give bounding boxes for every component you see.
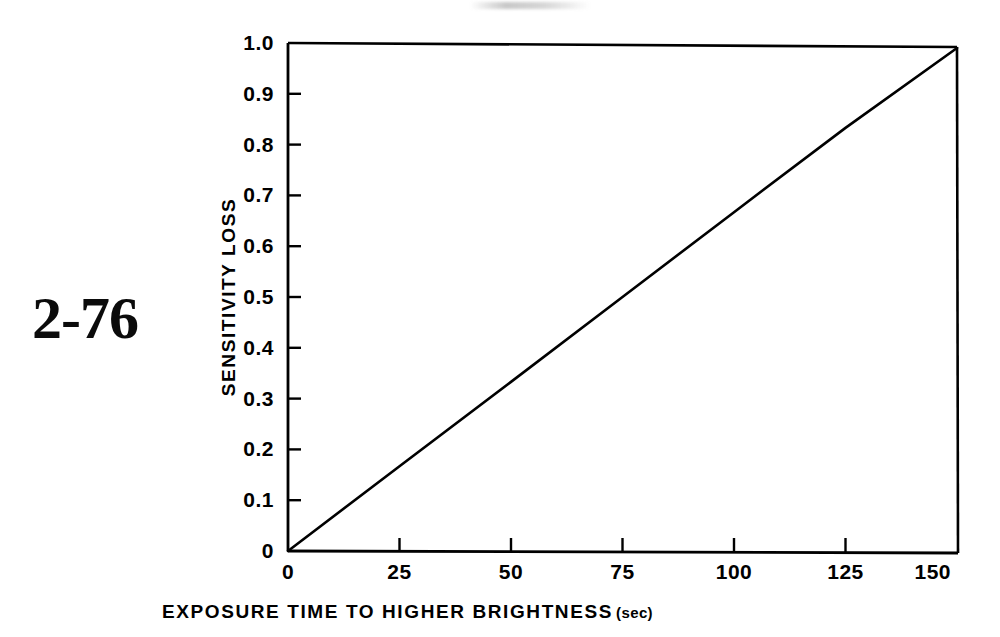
y-axis-tick-labels: 00.10.20.30.40.50.60.70.80.91.0 (243, 31, 274, 562)
x-tick-label-0: 0 (282, 560, 294, 583)
y-tick-label-0: 0 (262, 539, 274, 562)
x-axis-title-units: (sec) (616, 604, 653, 621)
data-line-sensitivity-loss (288, 48, 957, 551)
y-tick-label-0.9: 0.9 (243, 82, 274, 105)
x-tick-label-25: 25 (387, 560, 411, 583)
data-series-group (288, 48, 957, 551)
x-tick-label-150: 150 (914, 560, 951, 583)
line-chart: 00.10.20.30.40.50.60.70.80.91.0 02550751… (0, 0, 1000, 637)
y-tick-label-0.3: 0.3 (243, 387, 274, 410)
y-axis-title: SENSITIVITY LOSS (218, 198, 239, 396)
x-tick-label-50: 50 (499, 560, 523, 583)
x-tick-label-100: 100 (716, 560, 753, 583)
y-tick-label-0.8: 0.8 (243, 133, 274, 156)
y-tick-label-0.2: 0.2 (243, 437, 274, 460)
x-tick-label-125: 125 (827, 560, 864, 583)
y-tick-label-1.0: 1.0 (243, 31, 274, 54)
y-axis-ticks (288, 94, 301, 500)
y-tick-label-0.6: 0.6 (243, 234, 274, 257)
x-axis-ticks (400, 538, 846, 552)
y-tick-label-0.4: 0.4 (243, 336, 274, 359)
y-tick-label-0.5: 0.5 (243, 285, 274, 308)
x-axis-title: EXPOSURE TIME TO HIGHER BRIGHTNESS (162, 601, 613, 622)
y-tick-label-0.7: 0.7 (243, 183, 274, 206)
plot-frame-top (288, 43, 957, 47)
chart-svg: 00.10.20.30.40.50.60.70.80.91.0 02550751… (0, 0, 1000, 637)
plot-frame-right (957, 47, 958, 553)
x-axis-tick-labels: 0255075100125150 (282, 560, 951, 583)
x-tick-label-75: 75 (610, 560, 634, 583)
y-tick-label-0.1: 0.1 (243, 488, 274, 511)
